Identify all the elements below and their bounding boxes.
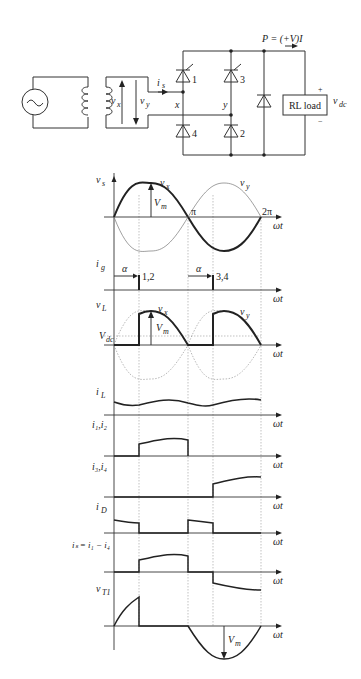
svg-text:iₛ = i₁ − i₄: iₛ = i₁ − i₄: [72, 540, 110, 550]
svg-text:D: D: [100, 506, 107, 515]
svg-text:x: x: [165, 182, 170, 191]
svg-text:i: i: [96, 258, 99, 269]
svg-text:+: +: [318, 85, 323, 94]
svg-text:2π: 2π: [262, 206, 272, 217]
svg-text:v: v: [240, 177, 245, 188]
waveforms: v s v x v y V m π 2π ωt α α 1,2 3,4 i: [72, 173, 283, 659]
power-label: P = (+V)I: [261, 33, 303, 45]
svg-text:v: v: [240, 306, 245, 317]
svg-text:π: π: [191, 206, 196, 217]
svg-text:v: v: [158, 303, 163, 314]
svg-text:−: −: [318, 117, 323, 126]
svg-text:y: y: [245, 311, 250, 320]
node-x-label: x: [174, 99, 180, 110]
svg-text:ωt: ωt: [273, 500, 283, 511]
svg-text:3,4: 3,4: [216, 271, 229, 282]
svg-text:1,2: 1,2: [142, 271, 155, 282]
svg-text:L: L: [101, 304, 107, 313]
vdc-label: v: [333, 95, 338, 106]
id-plot: i D ωt: [96, 501, 283, 547]
svg-text:s: s: [102, 179, 105, 188]
svg-text:m: m: [161, 202, 167, 211]
vy-label: v: [140, 95, 145, 106]
svg-text:dc: dc: [106, 335, 114, 344]
vx-label: v: [111, 95, 116, 106]
svg-text:α: α: [122, 263, 128, 274]
svg-text:g: g: [101, 263, 105, 272]
svg-text:dc: dc: [339, 100, 347, 109]
half-controlled-bridge-diagram: v x v y i s 1: [0, 0, 361, 679]
svg-text:2: 2: [240, 128, 245, 139]
svg-text:i₃,i₄: i₃,i₄: [92, 461, 108, 472]
circuit-schematic: v x v y i s 1: [22, 33, 347, 157]
svg-text:v: v: [160, 177, 165, 188]
svg-text:m: m: [235, 639, 241, 648]
i3-i4-plot: i₃,i₄ ωt: [92, 461, 283, 511]
svg-text:y: y: [145, 100, 150, 109]
svg-text:T1: T1: [102, 588, 110, 597]
svg-text:ωt: ωt: [273, 459, 283, 470]
svg-text:4: 4: [192, 128, 197, 139]
svg-text:ωt: ωt: [273, 293, 283, 304]
il-plot: i L ωt: [96, 386, 283, 429]
svg-text:α: α: [196, 263, 202, 274]
ig-plot: α α 1,2 3,4 i g ωt: [96, 258, 283, 304]
vl-plot: v L v x v y V m V dc ωt: [96, 299, 283, 379]
svg-text:ωt: ωt: [273, 418, 283, 429]
ac-source-icon: [22, 89, 48, 115]
svg-text:1: 1: [192, 74, 197, 85]
svg-text:s: s: [162, 81, 165, 90]
vt1-plot: V m v T1 ωt: [96, 583, 283, 659]
svg-text:v: v: [96, 174, 101, 185]
svg-text:ωt: ωt: [273, 629, 283, 640]
svg-text:L: L: [100, 391, 106, 400]
svg-text:i₁,i₂: i₁,i₂: [92, 419, 108, 430]
thyristor-3-icon: [224, 64, 241, 82]
svg-text:v: v: [96, 299, 101, 310]
svg-text:ωt: ωt: [273, 348, 283, 359]
svg-text:v: v: [96, 583, 101, 594]
svg-text:ωt: ωt: [273, 536, 283, 547]
is-plot: iₛ = i₁ − i₄ ωt: [72, 540, 283, 590]
svg-text:ωt: ωt: [273, 575, 283, 586]
rl-load-label: RL load: [289, 100, 321, 111]
vs-plot: v s v x v y V m π 2π ωt: [96, 174, 283, 251]
svg-text:i: i: [96, 501, 99, 512]
svg-text:3: 3: [240, 74, 245, 85]
i1-i2-plot: i₁,i₂ ωt: [92, 419, 283, 470]
is-label: i: [157, 77, 160, 88]
svg-text:m: m: [163, 327, 169, 336]
svg-text:i: i: [96, 386, 99, 397]
svg-text:x: x: [163, 308, 168, 317]
svg-text:ωt: ωt: [273, 220, 283, 231]
thyristor-1-icon: [176, 64, 193, 82]
node-y-label: y: [222, 99, 228, 110]
svg-text:x: x: [116, 100, 121, 109]
svg-text:y: y: [245, 182, 250, 191]
